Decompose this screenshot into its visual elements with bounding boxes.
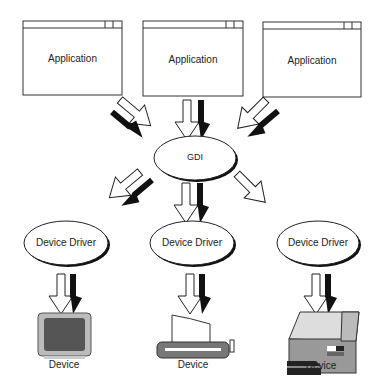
arrow-gdi-to-driver2 <box>174 183 209 223</box>
plotter-icon <box>157 315 234 358</box>
arrow-app3-to-gdi <box>229 92 284 144</box>
arrow-app2-to-gdi <box>175 100 210 140</box>
arrow-driver1-to-device <box>49 274 82 314</box>
driver-label-2: Device Driver <box>152 237 232 248</box>
arrow-driver3-to-device <box>304 274 337 314</box>
device-label-3: Device <box>301 360 341 371</box>
application-label-2: Application <box>143 54 243 65</box>
arrow-gdi-to-driver1 <box>102 163 158 213</box>
driver-label-1: Device Driver <box>26 237 106 248</box>
application-label-1: Application <box>23 53 122 64</box>
gdi-label: GDI <box>175 152 215 162</box>
monitor-icon <box>38 313 91 359</box>
device-label-1: Device <box>44 359 84 370</box>
device-label-2: Device <box>173 359 213 370</box>
application-label-3: Application <box>263 55 361 66</box>
arrow-app1-to-gdi <box>110 91 158 140</box>
driver-label-3: Device Driver <box>278 237 358 248</box>
arrow-gdi-to-driver3 <box>229 166 274 211</box>
arrow-driver2-to-device <box>178 274 211 314</box>
